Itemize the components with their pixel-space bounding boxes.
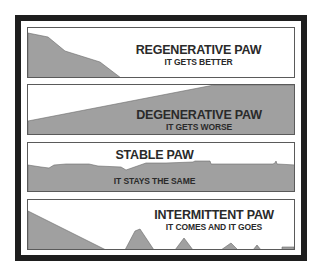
panel-subtitle: IT STAYS THE SAME — [27, 176, 294, 186]
panel-title: STABLE PAW — [27, 148, 294, 162]
panel-degenerative: DEGENERATIVE PAW IT GETS WORSE — [27, 84, 295, 135]
panel-title: INTERMITTENT PAW — [134, 208, 294, 222]
panel-regenerative: REGENERATIVE PAW IT GETS BETTER — [27, 27, 295, 78]
panel-subtitle: IT GETS WORSE — [104, 122, 294, 132]
panel-title: DEGENERATIVE PAW — [104, 108, 294, 122]
panel-subtitle: IT COMES AND IT GOES — [134, 222, 294, 232]
panel-subtitle: IT GETS BETTER — [103, 57, 294, 67]
panel-intermittent: INTERMITTENT PAW IT COMES AND IT GOES — [27, 199, 295, 250]
panel-title: REGENERATIVE PAW — [103, 43, 294, 57]
panel-stable: STABLE PAW IT STAYS THE SAME — [27, 142, 295, 192]
